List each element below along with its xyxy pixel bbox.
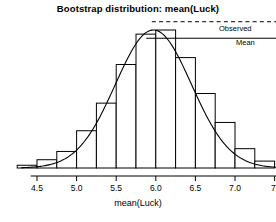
x-tick-label: 7.0 (220, 183, 250, 193)
histogram-bar (235, 149, 255, 168)
histogram-bar (156, 30, 176, 168)
x-tick-label: 7. (260, 183, 276, 193)
histogram-bar (176, 58, 196, 168)
histogram-bar (77, 131, 97, 168)
histogram-bar (96, 103, 116, 168)
x-tick-label: 5.0 (62, 183, 92, 193)
histogram-bar (136, 34, 156, 168)
bootstrap-distribution-chart: Bootstrap distribution: mean(Luck) Obser… (0, 0, 276, 222)
histogram-bar (195, 93, 215, 168)
histogram-bars (17, 30, 274, 168)
observed-label: Observed (219, 24, 252, 33)
x-tick-label: 4.5 (22, 183, 52, 193)
x-tick-label: 6.0 (141, 183, 171, 193)
x-tick-label: 6.5 (180, 183, 210, 193)
mean-label: Mean (236, 38, 255, 47)
x-axis-title: mean(Luck) (0, 198, 276, 208)
histogram-bar (57, 151, 77, 168)
x-axis-ticks (37, 176, 275, 181)
histogram-bar (116, 65, 136, 169)
x-tick-label: 5.5 (101, 183, 131, 193)
